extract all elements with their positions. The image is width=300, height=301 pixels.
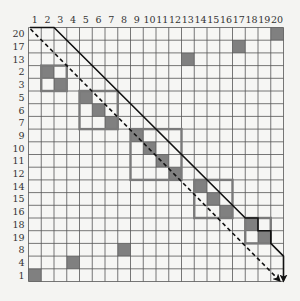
filled-cell xyxy=(194,180,207,193)
column-label: 11 xyxy=(156,14,168,25)
column-label: 6 xyxy=(96,14,102,25)
filled-cell xyxy=(54,78,67,91)
filled-cell xyxy=(233,40,246,53)
row-label: 13 xyxy=(12,54,24,65)
row-label: 7 xyxy=(18,117,24,128)
column-label: 19 xyxy=(258,14,270,25)
row-label: 14 xyxy=(12,181,24,192)
filled-cell xyxy=(105,116,118,129)
column-label: 7 xyxy=(108,14,114,25)
column-label: 10 xyxy=(144,14,156,25)
filled-cell xyxy=(271,28,284,41)
filled-cell xyxy=(80,91,93,104)
row-label: 18 xyxy=(12,219,24,230)
column-label: 9 xyxy=(134,14,140,25)
filled-cell xyxy=(207,193,220,206)
filled-cell xyxy=(245,218,258,231)
column-label: 16 xyxy=(220,14,232,25)
filled-cell xyxy=(29,269,42,282)
filled-cell xyxy=(41,66,54,79)
filled-cell xyxy=(220,205,233,218)
filled-cell xyxy=(118,243,131,256)
row-label: 8 xyxy=(18,244,24,255)
column-label: 15 xyxy=(207,14,219,25)
column-label: 18 xyxy=(246,14,258,25)
column-label: 20 xyxy=(271,14,283,25)
row-label: 10 xyxy=(12,143,24,154)
row-label: 11 xyxy=(12,155,24,166)
row-label: 16 xyxy=(12,206,24,217)
permuted-matrix-diagram: 1234567891011121314151617181920 20171323… xyxy=(0,0,300,301)
column-label: 8 xyxy=(121,14,127,25)
filled-cell xyxy=(169,167,182,180)
column-label: 17 xyxy=(233,14,245,25)
column-label: 1 xyxy=(32,14,38,25)
column-labels: 1234567891011121314151617181920 xyxy=(32,14,283,25)
row-label: 17 xyxy=(12,41,24,52)
row-label: 3 xyxy=(18,79,24,90)
row-label: 4 xyxy=(18,257,24,268)
column-label: 12 xyxy=(169,14,181,25)
row-label: 1 xyxy=(18,270,24,281)
filled-cell xyxy=(182,53,195,66)
filled-cell xyxy=(67,256,80,269)
row-label: 5 xyxy=(18,92,24,103)
row-label: 15 xyxy=(12,193,24,204)
filled-cell xyxy=(258,231,271,244)
filled-cell xyxy=(156,155,169,168)
column-label: 2 xyxy=(45,14,51,25)
column-label: 5 xyxy=(83,14,89,25)
row-label: 12 xyxy=(12,168,24,179)
column-label: 3 xyxy=(57,14,63,25)
column-label: 14 xyxy=(195,14,207,25)
row-labels: 2017132356791011121415161819841 xyxy=(12,28,24,280)
row-label: 2 xyxy=(18,66,24,77)
row-label: 20 xyxy=(12,28,24,39)
row-label: 6 xyxy=(18,105,24,116)
row-label: 19 xyxy=(12,232,24,243)
filled-cell xyxy=(92,104,105,117)
column-label: 13 xyxy=(182,14,194,25)
column-label: 4 xyxy=(70,14,76,25)
row-label: 9 xyxy=(18,130,24,141)
